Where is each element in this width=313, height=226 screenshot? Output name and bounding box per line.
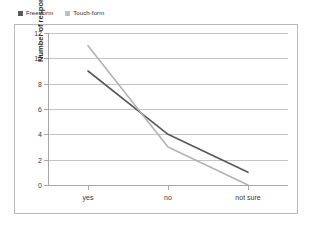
y-tick-label: 8 xyxy=(38,80,42,87)
y-tick-mark xyxy=(44,33,48,34)
chart-legend: Free-form Touch-form xyxy=(18,7,104,19)
legend-item-touch-form[interactable]: Touch-form xyxy=(65,10,104,17)
x-tick-mark xyxy=(248,186,249,190)
series-line-touch-form xyxy=(88,46,248,185)
y-tick-label: 6 xyxy=(38,106,42,113)
y-tick-label-group: 121086420 xyxy=(22,33,42,185)
y-tick-mark xyxy=(44,160,48,161)
y-tick-mark xyxy=(44,109,48,110)
y-tick-label: 2 xyxy=(38,156,42,163)
x-tick-label: yes xyxy=(83,194,94,202)
x-tick-label: not sure xyxy=(235,194,260,202)
chart-figure: Free-form Touch-form Number of responden… xyxy=(0,0,313,226)
legend-swatch-touch-form xyxy=(65,11,70,16)
series-lines xyxy=(48,33,288,185)
y-tick-mark xyxy=(44,134,48,135)
legend-swatch-free-form xyxy=(18,11,23,16)
y-tick-mark xyxy=(44,84,48,85)
y-tick-label: 0 xyxy=(38,182,42,189)
legend-label-touch-form: Touch-form xyxy=(73,10,104,17)
y-tick-mark xyxy=(44,58,48,59)
y-tick-label: 10 xyxy=(34,55,42,62)
y-tick-label: 12 xyxy=(34,30,42,37)
y-tick-label: 4 xyxy=(38,131,42,138)
x-tick-label: no xyxy=(164,194,172,202)
x-tick-mark xyxy=(88,186,89,190)
series-line-free-form xyxy=(88,71,248,172)
y-tick-mark xyxy=(44,185,48,186)
x-tick-mark xyxy=(168,186,169,190)
